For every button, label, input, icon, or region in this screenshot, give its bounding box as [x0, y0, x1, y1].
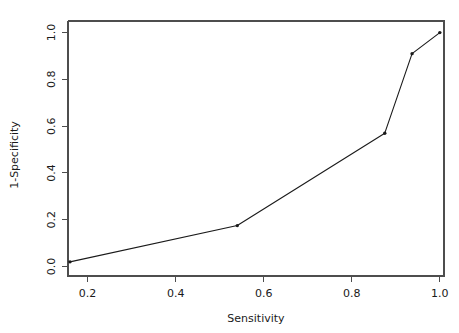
data-point: [438, 31, 441, 34]
data-point: [410, 52, 413, 55]
series-line: [70, 33, 440, 262]
plot-canvas: 0.20.40.60.81.0 0.00.20.40.60.81.0 Sensi…: [0, 0, 459, 333]
y-axis-title: 1-Specificity: [8, 121, 21, 189]
x-tick-label: 0.4: [167, 287, 185, 300]
plot-box-border: [68, 21, 444, 276]
series-points: [68, 31, 441, 264]
y-tick-label: 0.8: [45, 71, 58, 89]
y-tick-label: 0.4: [45, 164, 58, 182]
x-tick-label: 0.8: [343, 287, 361, 300]
x-axis: 0.20.40.60.81.0: [79, 276, 449, 300]
y-tick-label: 0.2: [45, 211, 58, 229]
roc-plot-figure: 0.20.40.60.81.0 0.00.20.40.60.81.0 Sensi…: [0, 0, 459, 333]
x-axis-title: Sensitivity: [227, 312, 285, 325]
y-tick-label: 0.6: [45, 117, 58, 135]
data-point: [383, 131, 386, 134]
y-axis: 0.00.20.40.60.81.0: [45, 24, 68, 275]
plot-frame: [68, 21, 444, 276]
data-series-roc-curve: [68, 31, 441, 264]
x-tick-label: 0.6: [255, 287, 273, 300]
x-tick-label: 0.2: [79, 287, 97, 300]
data-point: [68, 260, 71, 263]
y-tick-label: 1.0: [45, 24, 58, 42]
x-tick-label: 1.0: [431, 287, 449, 300]
y-tick-label: 0.0: [45, 258, 58, 276]
data-point: [236, 224, 239, 227]
